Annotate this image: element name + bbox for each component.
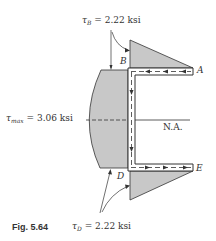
web-stress-parabola: [89, 70, 128, 168]
bottom-flange-stress-triangle: [130, 171, 193, 200]
channel-section: [128, 68, 193, 171]
neutral-axis-label: N.A.: [163, 122, 183, 132]
figure-caption: Fig. 5.64: [12, 222, 48, 232]
point-d-label: D: [117, 171, 124, 181]
tau-max-label: τmax = 3.06 ksi: [6, 113, 73, 124]
tau-d-label: τD = 2.22 ksi: [72, 221, 131, 232]
tau-b-label: τB = 2.22 ksi: [82, 15, 141, 26]
point-e-label: E: [196, 163, 203, 173]
point-a-label: A: [197, 65, 204, 75]
point-b-label: B: [120, 56, 127, 66]
top-flange-stress-triangle: [130, 40, 193, 68]
